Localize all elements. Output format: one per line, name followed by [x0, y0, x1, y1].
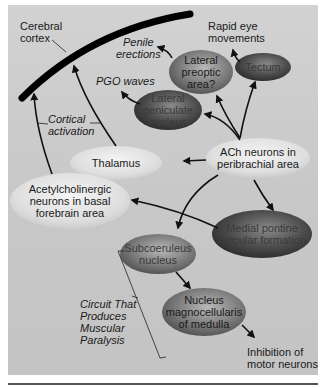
cerebral-cortex-label: Cerebral cortex — [20, 20, 62, 44]
cortical-leader-left — [37, 123, 48, 124]
arrow-ach-to-geniculate — [205, 114, 240, 140]
pgo-waves-label: PGO waves — [96, 75, 155, 87]
cortical-activation-label: Cortical activation — [48, 113, 94, 137]
arrow-ach-to-pontine — [254, 180, 273, 210]
inhibition-motor-neurons-label: Inhibition of motor neurons — [247, 346, 318, 370]
arrow-pontine-to-forebrain — [132, 200, 218, 228]
node-magnocellularis: Nucleus magnocellularis of medulla — [162, 288, 246, 336]
node-lateral-geniculate: Lateral geniculate nucleus — [134, 90, 202, 130]
arrow-ach-to-preoptic — [217, 96, 240, 138]
arrow-ach-to-thalamus — [184, 160, 206, 161]
node-ach-peribrachial: ACh neurons in peribrachial area — [206, 138, 310, 178]
rapid-eye-movements-label: Rapid eye movements — [208, 20, 265, 44]
arrow-subcoeruleus-to-magno — [176, 272, 190, 288]
node-basal-forebrain: Acetylcholinergic neurons in basal foreb… — [10, 173, 130, 229]
node-subcoeruleus: Subcoeruleus nucleus — [120, 234, 196, 274]
node-medial-pontine: Medial pontine reticular formation — [212, 210, 312, 258]
node-lateral-preoptic: Lateral preoptic area? — [169, 50, 233, 94]
node-tectum: Tectum — [235, 53, 291, 81]
penile-erections-label: Penile erections — [116, 36, 161, 60]
arrow-ach-to-tectum — [240, 82, 255, 138]
circuit-paralysis-label: Circuit That Produces Muscular Paralysis — [80, 298, 136, 346]
